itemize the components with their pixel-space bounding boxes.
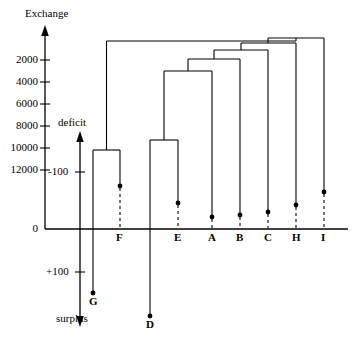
secondary-label-minus100: -100 bbox=[48, 166, 68, 177]
leaf-label-B: B bbox=[236, 232, 243, 243]
leaf-dot-C bbox=[266, 210, 271, 215]
secondary-label-surplus: surplus bbox=[56, 313, 88, 324]
y-tick-label-2000: 2000 bbox=[5, 54, 38, 65]
leaf-label-C: C bbox=[264, 232, 272, 243]
y-tick-label-12000: 12000 bbox=[2, 164, 38, 175]
leaf-label-I: I bbox=[321, 232, 325, 243]
leaf-dot-A bbox=[210, 215, 215, 220]
leaf-branch-A bbox=[210, 71, 215, 228]
leaf-dot-I bbox=[322, 190, 327, 195]
secondary-label-deficit: deficit bbox=[58, 117, 86, 128]
leaf-dot-F bbox=[118, 184, 123, 189]
leaf-label-A: A bbox=[208, 232, 216, 243]
leaf-branch-G bbox=[91, 150, 96, 295]
leaf-branch-H bbox=[294, 43, 299, 228]
y-tick-label-10000: 10000 bbox=[2, 142, 38, 153]
leaf-dot-H bbox=[294, 203, 299, 208]
leaf-branch-C bbox=[266, 50, 271, 228]
chart-canvas: Exchange 2000 4000 6000 8000 10000 12000… bbox=[0, 0, 356, 343]
leaf-label-H: H bbox=[292, 232, 301, 243]
leaf-branch-B bbox=[238, 59, 243, 228]
leaf-dot-B bbox=[238, 213, 243, 218]
y-axis-arrowhead-icon bbox=[41, 25, 49, 36]
secondary-label-plus100: +100 bbox=[46, 266, 69, 277]
y-tick-label-8000: 8000 bbox=[5, 120, 38, 131]
leaf-dot-E bbox=[176, 201, 181, 206]
secondary-axis-up-arrowhead-icon bbox=[76, 131, 83, 142]
leaf-label-E: E bbox=[174, 232, 181, 243]
leaf-branch-I bbox=[322, 38, 327, 228]
leaf-label-F: F bbox=[116, 232, 123, 243]
leaf-branch-E bbox=[176, 140, 181, 228]
y-axis-group bbox=[40, 25, 50, 229]
y-tick-label-6000: 6000 bbox=[5, 98, 38, 109]
y-tick-label-4000: 4000 bbox=[5, 76, 38, 87]
y-axis-title: Exchange bbox=[25, 8, 68, 19]
leaf-label-D: D bbox=[146, 319, 154, 330]
leaf-branch-F bbox=[118, 150, 123, 228]
y-tick-label-0: 0 bbox=[2, 223, 38, 234]
leaf-label-G: G bbox=[89, 296, 98, 307]
